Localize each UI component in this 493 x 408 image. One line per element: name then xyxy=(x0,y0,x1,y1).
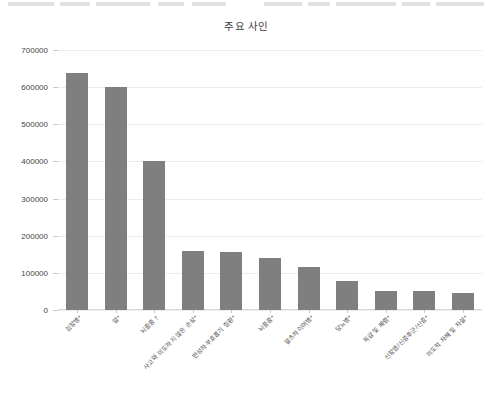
bar xyxy=(298,267,320,310)
y-axis-tick-label: 600000 xyxy=(0,83,48,92)
plot-area xyxy=(58,50,482,310)
y-axis-tick-label: 500000 xyxy=(0,120,48,129)
bar xyxy=(452,293,474,310)
bar xyxy=(182,251,204,310)
x-axis-tick-label: 의도적 자해 및 자살* xyxy=(378,313,469,404)
x-tick-mark xyxy=(231,310,232,313)
bar xyxy=(375,291,397,310)
bar xyxy=(336,281,358,310)
chart-title: 주요 사인 xyxy=(0,18,493,33)
y-axis-tick-label: 100000 xyxy=(0,268,48,277)
bar-series xyxy=(58,50,482,310)
bar xyxy=(220,252,242,310)
scan-artifact-band xyxy=(0,0,493,9)
bar xyxy=(259,258,281,310)
bar xyxy=(143,161,165,310)
bar xyxy=(413,291,435,310)
y-axis-tick-label: 300000 xyxy=(0,194,48,203)
bar xyxy=(66,73,88,310)
y-axis-tick-label: 0 xyxy=(0,306,48,315)
y-axis-tick-label: 700000 xyxy=(0,46,48,55)
bar xyxy=(105,87,127,310)
y-axis-tick-label: 400000 xyxy=(0,157,48,166)
chart-figure: 주요 사인 0100000200000300000400000500000600… xyxy=(0,0,493,408)
y-axis-tick-label: 200000 xyxy=(0,231,48,240)
x-axis-labels: 심장병*암*뇌졸중 †사고와 의도하지 않은 손상*만성하부호흡기 질환*뇌졸중… xyxy=(58,311,482,406)
